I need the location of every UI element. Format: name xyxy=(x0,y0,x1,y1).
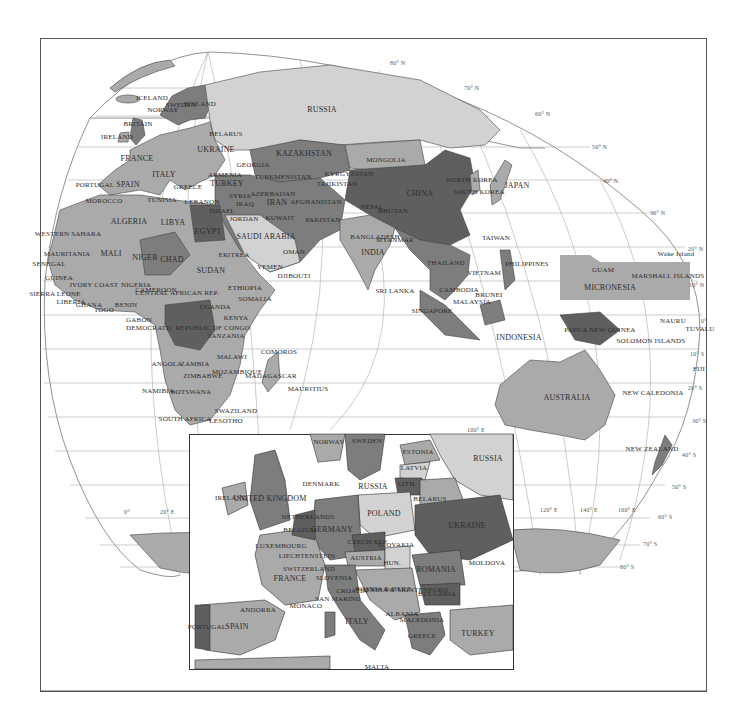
lat-label: 40° N xyxy=(603,178,618,184)
country-label: IRELAND xyxy=(101,134,133,141)
country-label: MOLDOVA xyxy=(469,560,505,567)
lat-label: 40° S xyxy=(682,452,696,458)
country-label: TURKEY xyxy=(210,180,244,188)
lon-label: 100° E xyxy=(467,427,485,433)
country-label: PORTUGAL xyxy=(188,624,227,631)
country-label: MALTA xyxy=(365,664,390,671)
country-label: SOUTH KOREA xyxy=(453,189,504,196)
country-label: NAMIBIA xyxy=(142,388,174,395)
country-label: JORDAN xyxy=(230,216,259,223)
country-label: KUWAIT xyxy=(266,215,295,222)
country-label: MARSHALL ISLANDS xyxy=(632,273,705,280)
country-label: ITALY xyxy=(345,618,369,626)
country-label: MACEDONIA xyxy=(400,617,445,624)
country-label: KYRGYZSTAN xyxy=(325,171,374,178)
country-label: VIETNAM xyxy=(467,270,501,277)
lon-label: 160° E xyxy=(618,507,636,513)
country-label: MALI xyxy=(100,250,121,258)
country-label: GREECE xyxy=(408,633,436,640)
country-label: SENEGAL xyxy=(32,261,65,268)
country-label: SLOVENIA xyxy=(316,575,353,582)
country-label: MICRONESIA xyxy=(584,284,636,292)
country-label: BELARUS xyxy=(209,131,242,138)
country-label: COMOROS xyxy=(261,349,297,356)
country-label: SUDAN xyxy=(197,267,226,275)
country-label: TUVALU xyxy=(685,326,714,333)
country-label: LATVIA xyxy=(401,465,427,472)
country-label: SPAIN xyxy=(225,623,248,631)
lon-label: 140° E xyxy=(580,507,598,513)
country-label: DENMARK xyxy=(303,481,340,488)
lat-label: 10° N xyxy=(689,282,704,288)
country-label: LIECHTENSTEIN xyxy=(279,553,336,560)
country-label: SPAIN xyxy=(116,181,139,189)
country-label: SOLOMON ISLANDS xyxy=(617,338,686,345)
country-label: UNITED KINGDOM xyxy=(233,495,306,503)
country-label: CHINA xyxy=(407,190,433,198)
country-label: FINLAND xyxy=(184,101,216,108)
country-label: TURKEY xyxy=(461,630,495,638)
country-label: ANDORRA xyxy=(240,607,276,614)
country-label: NAURU xyxy=(660,318,686,325)
country-label: PAPUA NEW GUINEA xyxy=(564,327,635,334)
country-label: FRANCE xyxy=(274,575,307,583)
lat-label: 30° S xyxy=(692,418,706,424)
map-canvas xyxy=(0,0,749,723)
country-label: NORTH KOREA xyxy=(446,177,498,184)
country-label: INDONESIA xyxy=(496,334,541,342)
country-label: NIGER xyxy=(132,254,157,262)
country-label: MONACO xyxy=(290,603,322,610)
country-label: AUSTRIA xyxy=(350,555,382,562)
country-label: INDIA xyxy=(361,249,385,257)
country-label: GREECE xyxy=(174,184,202,191)
lat-label: 70° S xyxy=(643,541,657,547)
country-label: Wake Island xyxy=(658,251,695,258)
country-label: ESTONIA xyxy=(402,449,433,456)
lat-label: 60° S xyxy=(658,514,672,520)
country-label: SAUDI ARABIA xyxy=(236,233,295,241)
country-label: TOGO xyxy=(94,307,114,314)
country-label: TANZANIA xyxy=(207,333,244,340)
country-label: KENYA xyxy=(224,315,249,322)
country-label: UGANDA xyxy=(199,304,231,311)
country-label: AUSTRALIA xyxy=(543,394,590,402)
country-label: UKRAINE xyxy=(448,522,485,530)
country-label: WESTERN SAHARA xyxy=(35,231,101,238)
country-label: IRAQ xyxy=(236,201,254,208)
country-label: EGYPT xyxy=(195,228,222,236)
country-label: BHUTAN xyxy=(378,208,408,215)
country-label: ISRAEL xyxy=(209,208,235,215)
country-label: MONGOLIA xyxy=(366,157,406,164)
lat-label: 50° S xyxy=(672,484,686,490)
country-label: TURKMENISTAN xyxy=(254,174,311,181)
country-label: BOTSWANA xyxy=(171,389,212,396)
lat-label: 0° xyxy=(701,318,707,324)
country-label: ITALY xyxy=(152,171,176,179)
country-label: TAIWAN xyxy=(482,235,510,242)
country-label: NEW CALEDONIA xyxy=(623,390,684,397)
country-label: NETHERLANDS xyxy=(281,514,334,521)
country-label: OMAN xyxy=(283,249,305,256)
country-label: LEBANON xyxy=(185,199,220,206)
country-label: GABON xyxy=(126,317,152,324)
country-label: SWITZERLAND xyxy=(283,566,335,573)
lat-label: 10° S xyxy=(690,351,704,357)
country-label: SAN MARINO xyxy=(315,596,361,603)
country-label: POLAND xyxy=(367,510,401,518)
country-label: FRANCE xyxy=(121,155,154,163)
country-label: RUSSIA xyxy=(307,106,337,114)
country-label: ERITREA xyxy=(219,252,250,259)
lat-label: 80° N xyxy=(390,60,405,66)
country-label: ALGERIA xyxy=(111,218,148,226)
country-label: AZERBAIJAN xyxy=(250,191,295,198)
lat-label: 30° N xyxy=(650,210,665,216)
country-label: ETHIOPIA xyxy=(228,285,262,292)
country-label: HUN. xyxy=(383,560,401,567)
country-label: GERMANY xyxy=(311,526,353,534)
country-label: SOMALIA xyxy=(238,296,271,303)
country-label: THAILAND xyxy=(427,260,465,267)
country-label: ZIMBABWE xyxy=(183,373,223,380)
country-label: SWAZILAND xyxy=(215,408,258,415)
country-label: MAURITIUS xyxy=(288,386,329,393)
country-label: ICELAND xyxy=(136,95,168,102)
